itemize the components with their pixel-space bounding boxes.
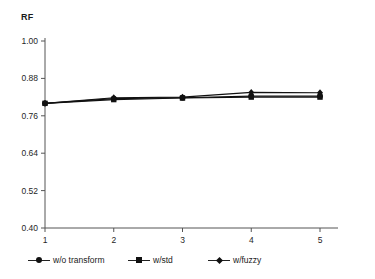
legend-item-w-fuzzy[interactable]: w/fuzzy [208,252,261,268]
y-tick-label: 0.88 [21,73,38,83]
x-axis-ticks: 12345 [43,228,323,245]
legend-label: w/std [153,255,173,265]
series-w-fuzzy [42,89,323,107]
y-tick-label: 1.00 [21,36,38,46]
y-tick-label: 0.52 [21,186,38,196]
legend-item-w-o-transform[interactable]: w/o transform [28,252,105,268]
data-series-layer [42,89,323,107]
legend-item-w-std[interactable]: w/std [128,252,173,268]
x-tick-label: 5 [318,235,323,245]
y-tick-label: 0.76 [21,111,38,121]
y-tick-label: 0.40 [21,223,38,233]
legend-label: w/fuzzy [233,255,261,265]
rf-line-chart: RF 1.000.880.760.640.520.40 12345 w/o tr… [0,0,375,279]
y-axis-ticks: 1.000.880.760.640.520.40 [21,36,45,233]
legend-label: w/o transform [53,255,105,265]
legend-marker-circle-icon [28,255,50,265]
plot-area: 1.000.880.760.640.520.40 12345 [0,0,375,279]
legend-marker-diamond-icon [208,255,230,265]
x-tick-label: 2 [111,235,116,245]
chart-legend: w/o transformw/stdw/fuzzy [0,250,375,272]
legend-marker-square-icon [128,255,150,265]
y-tick-label: 0.64 [21,148,38,158]
x-tick-label: 1 [43,235,48,245]
x-tick-label: 3 [180,235,185,245]
x-tick-label: 4 [249,235,254,245]
axis-lines [45,38,338,228]
